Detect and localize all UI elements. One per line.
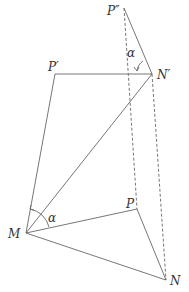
segment-P-double-prime-N-prime (124, 8, 152, 74)
label-P: P (125, 197, 135, 211)
label-N-prime: N′ (156, 68, 171, 82)
dashed-N-prime-N (152, 74, 166, 280)
segment-M-N (26, 233, 166, 280)
dashed-P-double-prime-P (124, 8, 137, 209)
diagram-svg: P″ P′ N′ M P N α α (0, 0, 189, 292)
geometry-diagram: P″ P′ N′ M P N α α (0, 0, 189, 292)
label-alpha-bottom: α (48, 211, 56, 225)
label-alpha-top: α (127, 46, 135, 60)
label-P-double-prime: P″ (106, 4, 120, 18)
label-N: N (169, 274, 181, 288)
label-P-prime: P′ (47, 60, 59, 74)
label-M: M (7, 227, 21, 241)
arc-arrowhead-bottom (30, 205, 34, 210)
arc-arrowhead-top (134, 67, 139, 71)
